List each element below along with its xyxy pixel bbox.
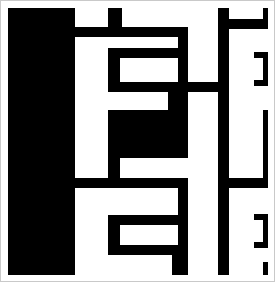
right-lower-inset-cap-top <box>254 214 268 220</box>
lower-divider-horizontal <box>75 178 188 188</box>
right-upper-inset-cap-top <box>254 52 268 58</box>
right-mid-long-vertical <box>263 110 268 186</box>
top-notch-tab <box>108 8 122 27</box>
right-top-horizontal-cap <box>229 19 267 29</box>
artboard: High-contrast abstract composition of in… <box>0 0 275 282</box>
right-tall-vertical-rail <box>218 8 229 275</box>
bottom-u-top-horizontal <box>108 215 188 225</box>
upper-long-horizontal-bar <box>75 27 188 37</box>
right-lower-inset-cap-bot <box>254 242 268 248</box>
right-mid-join-horizontal <box>229 178 268 188</box>
inner-u-top-horizontal <box>108 48 188 58</box>
abstract-geometric-figure <box>0 0 275 282</box>
left-solid-block <box>8 8 75 275</box>
right-bottom-edge-vertical <box>263 262 268 275</box>
inner-u-bottom-horizontal <box>108 82 220 92</box>
right-top-edge-vertical <box>263 8 268 29</box>
mid-long-horizontal-bar <box>108 148 188 158</box>
right-upper-inset-cap-bot <box>254 80 268 86</box>
bottom-u-bottom-horizontal <box>108 245 188 255</box>
bottom-notch-tab <box>172 255 188 275</box>
